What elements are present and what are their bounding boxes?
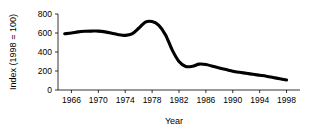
x-axis: 196619701974197819821986199019941998 — [58, 90, 300, 105]
x-tick-label: 1978 — [143, 95, 162, 105]
chart-plot-area: 0200400600800 19661970197419781982198619… — [0, 0, 315, 136]
x-axis-tick-labels: 196619701974197819821986199019941998 — [62, 95, 296, 105]
y-tick-label: 0 — [47, 85, 52, 95]
x-tick-label: 1974 — [116, 95, 135, 105]
x-tick-label: 1998 — [277, 95, 296, 105]
y-tick-label: 200 — [38, 66, 52, 76]
x-tick-label: 1994 — [250, 95, 269, 105]
y-tick-label: 600 — [38, 28, 52, 38]
x-tick-label: 1966 — [62, 95, 81, 105]
y-tick-label: 800 — [38, 9, 52, 19]
x-tick-label: 1990 — [223, 95, 242, 105]
x-axis-ticks — [71, 90, 286, 93]
line-chart-figure: 0200400600800 19661970197419781982198619… — [0, 0, 315, 136]
y-axis-tick-labels: 0200400600800 — [38, 9, 52, 95]
series-line-index — [65, 21, 287, 80]
x-tick-label: 1970 — [89, 95, 108, 105]
x-tick-label: 1982 — [170, 95, 189, 105]
y-axis-title: Index (1998 = 100) — [8, 14, 18, 90]
y-tick-label: 400 — [38, 47, 52, 57]
y-axis-ticks — [55, 14, 58, 90]
x-axis-title: Year — [165, 116, 183, 126]
data-series-group — [65, 21, 287, 80]
y-axis: 0200400600800 — [38, 9, 58, 95]
x-tick-label: 1986 — [196, 95, 215, 105]
